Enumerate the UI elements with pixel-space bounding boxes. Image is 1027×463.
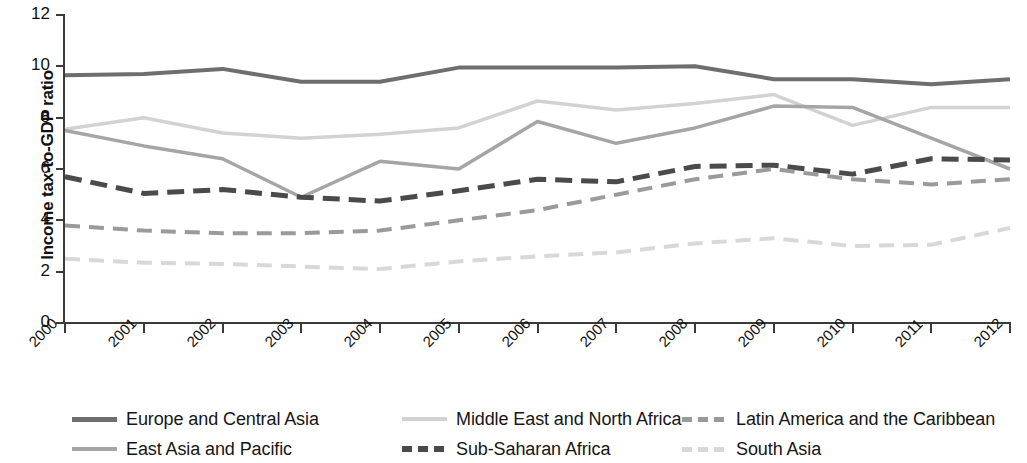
- legend-label: Middle East and North Africa: [456, 409, 681, 430]
- legend-label: Sub-Saharan Africa: [456, 439, 610, 460]
- y-tick-mark: [56, 271, 65, 273]
- y-tick-mark: [56, 14, 65, 16]
- x-tick-mark: [773, 324, 775, 333]
- chart-plot: [0, 0, 1027, 463]
- x-tick-label: 2005: [419, 314, 455, 350]
- chart-legend: Europe and Central AsiaMiddle East and N…: [72, 404, 1022, 463]
- x-tick-label: 2010: [813, 314, 849, 350]
- y-tick-label: 2: [0, 261, 50, 281]
- x-tick-mark: [1009, 324, 1011, 333]
- legend-swatch: [682, 417, 727, 422]
- legend-swatch: [402, 417, 447, 421]
- y-tick-mark: [56, 168, 65, 170]
- x-tick-label: 2006: [498, 314, 534, 350]
- chart-figure: Income tax-to-GDP ratio 024681012 200020…: [0, 0, 1027, 463]
- legend-item[interactable]: Sub-Saharan Africa: [402, 434, 682, 463]
- series-line-latin-america-and-the-caribbean: [65, 169, 1010, 233]
- series-line-middle-east-and-north-africa: [65, 95, 1010, 139]
- x-tick-mark: [615, 324, 617, 333]
- x-tick-mark: [694, 324, 696, 333]
- x-tick-mark: [537, 324, 539, 333]
- x-tick-label: 2007: [576, 314, 612, 350]
- x-tick-label: 2009: [734, 314, 770, 350]
- legend-label: Latin America and the Caribbean: [736, 409, 995, 430]
- y-tick-mark: [56, 117, 65, 119]
- series-line-east-asia-and-pacific: [65, 106, 1010, 197]
- y-tick-label: 10: [0, 55, 50, 75]
- x-tick-label: 2011: [891, 315, 926, 350]
- y-tick-label: 6: [0, 158, 50, 178]
- legend-swatch: [402, 446, 447, 452]
- y-tick-label: 8: [0, 107, 50, 127]
- y-tick-label: 4: [0, 209, 50, 229]
- x-tick-label: 2012: [970, 314, 1006, 350]
- x-tick-label: 2004: [340, 314, 376, 350]
- y-tick-mark: [56, 219, 65, 221]
- x-tick-label: 2002: [183, 314, 219, 350]
- legend-label: East Asia and Pacific: [126, 439, 292, 460]
- legend-item[interactable]: East Asia and Pacific: [72, 434, 402, 463]
- legend-item[interactable]: Europe and Central Asia: [72, 404, 402, 434]
- x-tick-mark: [458, 324, 460, 333]
- legend-item[interactable]: Latin America and the Caribbean: [682, 404, 1022, 434]
- legend-swatch: [682, 447, 727, 452]
- x-tick-label: 2003: [261, 314, 297, 350]
- x-tick-mark: [222, 324, 224, 333]
- x-tick-mark: [143, 324, 145, 333]
- y-tick-mark: [56, 65, 65, 67]
- x-tick-mark: [64, 324, 66, 333]
- legend-swatch: [72, 447, 117, 451]
- series-line-europe-and-central-asia: [65, 66, 1010, 84]
- series-line-sub-saharan-africa: [65, 159, 1010, 201]
- y-tick-label: 12: [0, 4, 50, 24]
- x-tick-label: 2008: [655, 314, 691, 350]
- series-line-south-asia: [65, 228, 1010, 269]
- legend-swatch: [72, 417, 117, 422]
- legend-item[interactable]: Middle East and North Africa: [402, 404, 682, 434]
- legend-item[interactable]: South Asia: [682, 434, 1022, 463]
- x-tick-mark: [852, 324, 854, 333]
- x-tick-mark: [300, 324, 302, 333]
- legend-label: South Asia: [736, 439, 821, 460]
- x-tick-label: 2001: [104, 314, 140, 350]
- x-tick-mark: [379, 324, 381, 333]
- legend-label: Europe and Central Asia: [126, 409, 319, 430]
- x-tick-mark: [930, 324, 932, 333]
